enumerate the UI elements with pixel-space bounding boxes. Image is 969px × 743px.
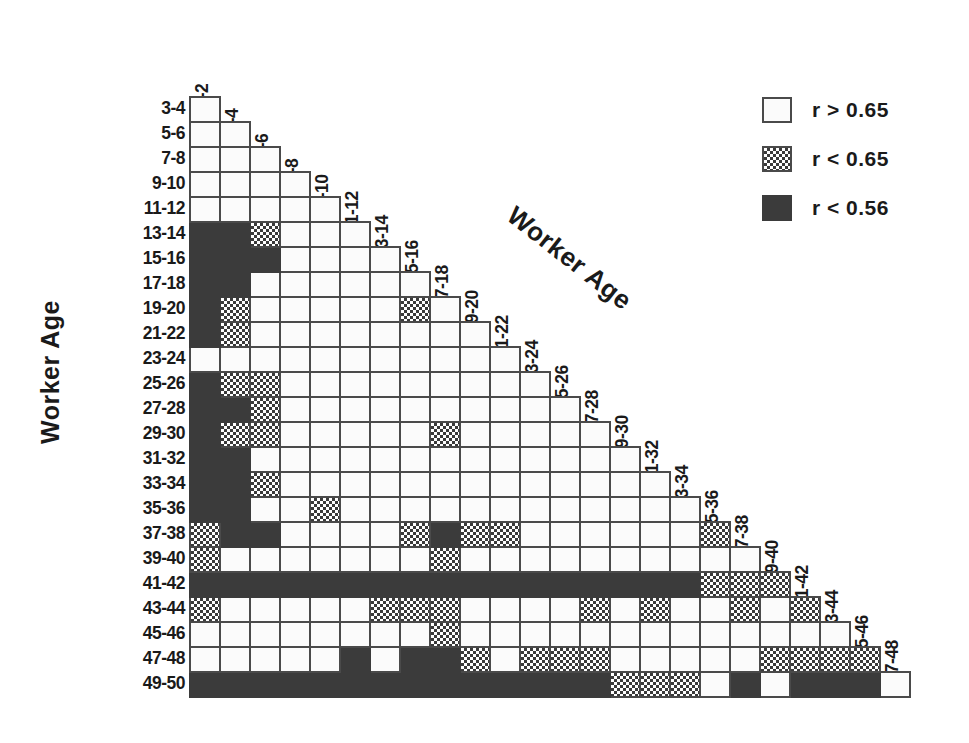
matrix-cell — [430, 447, 460, 472]
matrix-cell — [700, 647, 730, 672]
matrix-cell — [190, 397, 220, 422]
matrix-cell — [220, 122, 250, 147]
matrix-cell — [610, 672, 640, 697]
matrix-cell-empty — [760, 522, 790, 547]
matrix-cell-empty — [730, 397, 760, 422]
matrix-cell-empty — [760, 422, 790, 447]
matrix-cell — [580, 447, 610, 472]
matrix-cell — [340, 397, 370, 422]
matrix-cell-empty — [370, 122, 400, 147]
matrix-cell — [370, 422, 400, 447]
matrix-cell — [220, 497, 250, 522]
matrix-cell-empty — [580, 297, 610, 322]
row-label: 19-20 — [75, 300, 185, 318]
matrix-cell-empty — [490, 197, 520, 222]
matrix-cell-empty — [670, 347, 700, 372]
matrix-cell — [190, 347, 220, 372]
legend-swatch-hatch — [762, 146, 792, 172]
matrix-cell-empty — [490, 322, 520, 347]
matrix-cell — [280, 497, 310, 522]
matrix-cell — [760, 647, 790, 672]
matrix-cell — [490, 572, 520, 597]
matrix-cell-empty — [520, 197, 550, 222]
matrix-cell-empty — [820, 322, 850, 347]
matrix-cell-empty — [610, 247, 640, 272]
matrix-cell — [220, 622, 250, 647]
matrix-cell — [640, 597, 670, 622]
matrix-cell-empty — [610, 397, 640, 422]
row-label: 35-36 — [75, 500, 185, 518]
matrix-cell-empty — [850, 297, 880, 322]
matrix-cell — [370, 447, 400, 472]
matrix-cell — [700, 572, 730, 597]
matrix-cell — [670, 572, 700, 597]
matrix-cell — [220, 347, 250, 372]
matrix-cell-empty — [880, 547, 910, 572]
matrix-cell — [430, 322, 460, 347]
matrix-cell-empty — [760, 322, 790, 347]
matrix-cell — [400, 672, 430, 697]
matrix-cell — [370, 672, 400, 697]
matrix-cell — [550, 597, 580, 622]
matrix-cell-empty — [580, 372, 610, 397]
matrix-cell-empty — [700, 197, 730, 222]
matrix-cell — [220, 572, 250, 597]
matrix-cell — [640, 522, 670, 547]
matrix-cell-empty — [700, 247, 730, 272]
matrix-cell — [190, 247, 220, 272]
matrix-cell-empty — [820, 272, 850, 297]
matrix-cell-empty — [880, 247, 910, 272]
matrix-cell-empty — [550, 322, 580, 347]
matrix-cell-empty — [790, 247, 820, 272]
matrix-cell — [250, 622, 280, 647]
matrix-cell-empty — [610, 347, 640, 372]
row-label: 27-28 — [75, 400, 185, 418]
matrix-cell-empty — [280, 147, 310, 172]
matrix-cell-empty — [610, 297, 640, 322]
matrix-cell-empty — [310, 172, 340, 197]
matrix-cell-empty — [700, 322, 730, 347]
matrix-cell — [520, 497, 550, 522]
matrix-row — [190, 547, 910, 572]
matrix-cell-empty — [400, 247, 430, 272]
matrix-cell-empty — [460, 272, 490, 297]
row-label: 43-44 — [75, 600, 185, 618]
matrix-cell — [670, 497, 700, 522]
matrix-cell-empty — [340, 122, 370, 147]
matrix-cell-empty — [490, 272, 520, 297]
matrix-cell-empty — [880, 522, 910, 547]
matrix-cell — [190, 422, 220, 447]
matrix-cell-empty — [760, 547, 790, 572]
matrix-cell — [430, 472, 460, 497]
matrix-cell-empty — [820, 547, 850, 572]
matrix-cell — [250, 197, 280, 222]
matrix-cell — [370, 347, 400, 372]
matrix-cell — [490, 597, 520, 622]
matrix-cell-empty — [340, 147, 370, 172]
matrix-cell — [400, 647, 430, 672]
matrix-cell-empty — [580, 222, 610, 247]
matrix-cell — [460, 522, 490, 547]
matrix-cell — [250, 597, 280, 622]
matrix-cell — [190, 97, 220, 122]
matrix-cell — [280, 597, 310, 622]
matrix-cell-empty — [550, 272, 580, 297]
matrix-cell — [730, 672, 760, 697]
legend-label: r < 0.56 — [812, 196, 889, 220]
matrix-cell-empty — [520, 247, 550, 272]
matrix-cell — [670, 547, 700, 572]
matrix-cell-empty — [850, 397, 880, 422]
matrix-cell — [190, 222, 220, 247]
matrix-cell-empty — [700, 447, 730, 472]
matrix-cell — [220, 397, 250, 422]
matrix-cell — [460, 497, 490, 522]
matrix-cell-empty — [580, 347, 610, 372]
matrix-cell-empty — [730, 472, 760, 497]
matrix-cell-empty — [670, 372, 700, 397]
matrix-cell-empty — [220, 97, 250, 122]
matrix-cell — [670, 522, 700, 547]
row-label: 31-32 — [75, 450, 185, 468]
matrix-cell — [430, 622, 460, 647]
matrix-cell — [340, 372, 370, 397]
matrix-cell-empty — [820, 397, 850, 422]
